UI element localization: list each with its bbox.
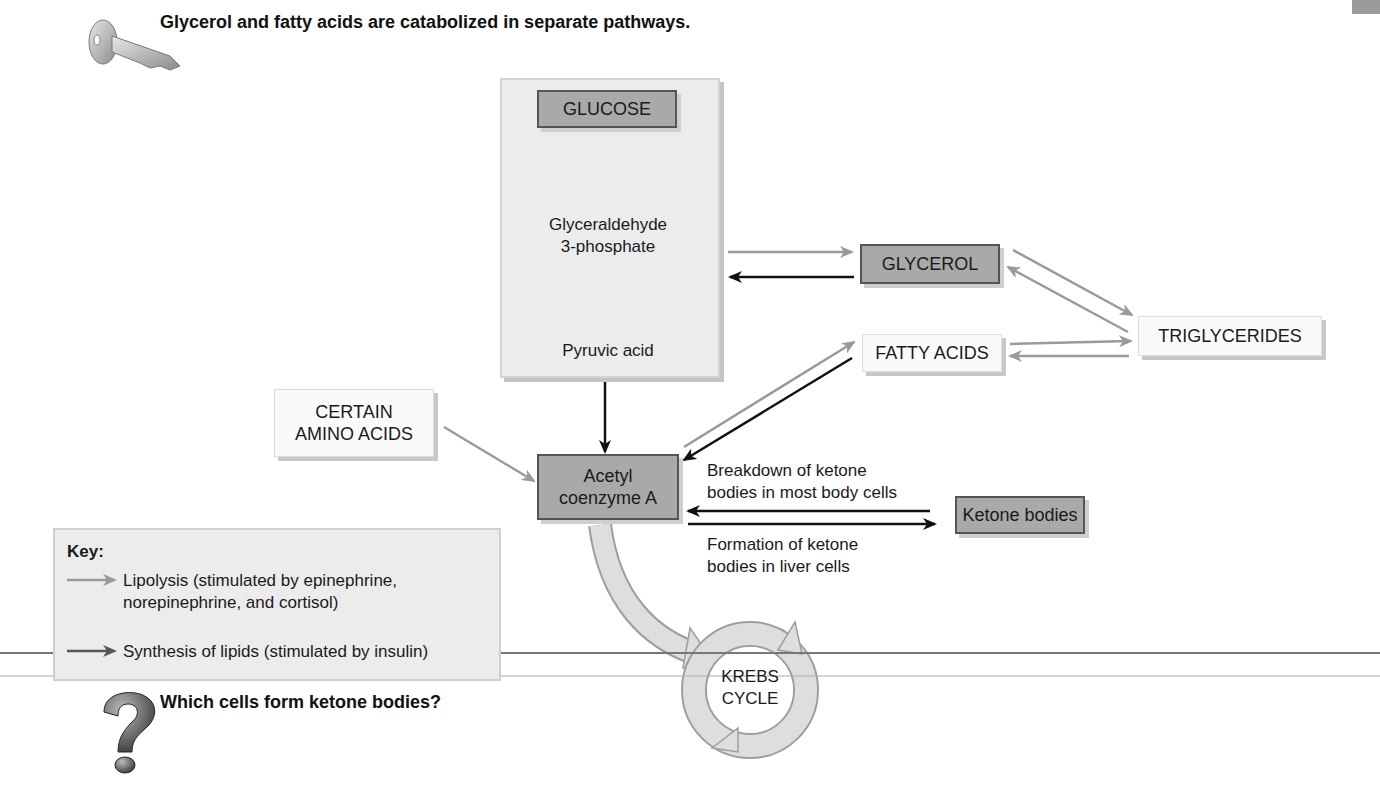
ketone-bodies-box: Ketone bodies [955, 496, 1085, 534]
krebs-cycle-label: KREBS CYCLE [710, 666, 790, 710]
glycerol-box: GLYCEROL [860, 244, 1000, 284]
question-mark-icon [104, 693, 155, 773]
key-item-lipolysis: Lipolysis (stimulated by epinephrine, no… [67, 570, 397, 614]
triglycerides-box: TRIGLYCERIDES [1138, 316, 1322, 356]
question-text: Which cells form ketone bodies? [160, 692, 441, 713]
glucose-box: GLUCOSE [537, 90, 677, 128]
acetyl-coa-box: Acetyl coenzyme A [537, 454, 679, 520]
g3p-label: Glyceraldehyde 3-phosphate [520, 214, 696, 258]
formation-label: Formation of ketone bodies in liver cell… [707, 534, 858, 578]
breakdown-label: Breakdown of ketone bodies in most body … [707, 460, 897, 504]
amino-acids-box: CERTAIN AMINO ACIDS [274, 389, 434, 457]
pyruvic-acid-label: Pyruvic acid [520, 340, 696, 362]
dark-arrow-icon [67, 641, 119, 661]
legend-key: Key: Lipolysis (stimulated by epinephrin… [53, 528, 501, 681]
gray-arrow-icon [67, 570, 119, 590]
fatty-acids-box: FATTY ACIDS [862, 334, 1002, 372]
key-title: Key: [67, 542, 104, 562]
glucose-label: GLUCOSE [563, 98, 651, 120]
key-item-synthesis: Synthesis of lipids (stimulated by insul… [67, 641, 428, 663]
page-title: Glycerol and fatty acids are catabolized… [160, 12, 690, 33]
